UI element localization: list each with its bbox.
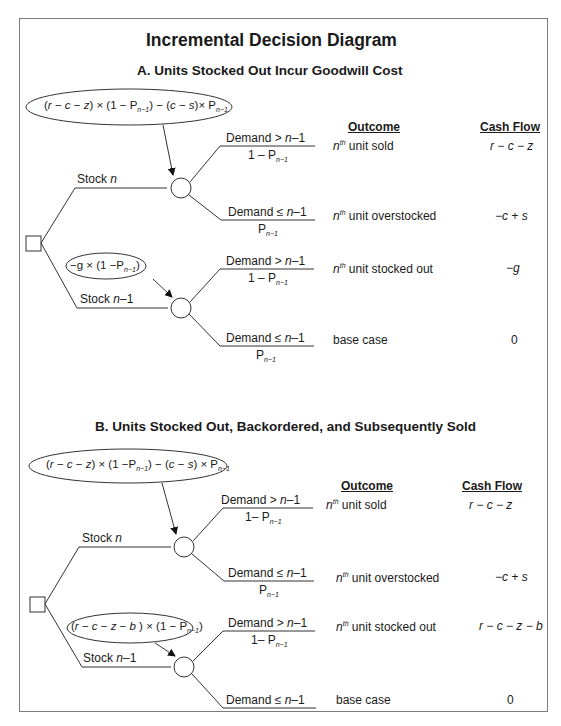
chance-node-b-stock-n1 [174,657,194,677]
panel-b-cashflow-1: r − c − z [469,499,512,511]
panel-b-branch-1-prob: 1– Pn−1 [245,511,282,525]
panel-a-stock-n-formula: (r − c − z) × (1 − Pn−1) − (c − s)× Pn−1 [44,100,228,113]
decision-node-b [30,597,45,612]
panel-b-branch-3-event: Demand > n–1 [228,617,307,629]
panel-a-outcome-1: nth unit sold [333,139,394,152]
panel-b-stock-n-formula: (r − c − z) × (1 −Pn−1) − (c − s) × Pn−1 [46,459,230,472]
panel-b-outcome-2: nth unit overstocked [336,571,439,584]
chance-node-b-stock-n [174,537,194,557]
panel-a-outcome-header: Outcome [348,121,400,133]
panel-b-outcome-3: nth unit stocked out [336,620,436,633]
page-title: Incremental Decision Diagram [146,32,397,50]
panel-b-cashflow-4: 0 [507,694,514,706]
panel-a-cashflow-3: −g [506,262,520,274]
panel-a-branch-3-prob: 1 – Pn−1 [248,272,288,286]
panel-b-stock-n-label: Stock n [82,532,122,544]
panel-b-branch-2-event: Demand ≤ n–1 [228,567,307,579]
panel-b-branch-1-event: Demand > n–1 [221,494,300,506]
panel-a-branch-1-prob: 1 – Pn−1 [248,149,288,163]
panel-a-stock-n-label: Stock n [77,173,117,185]
panel-b-heading: B. Units Stocked Out, Backordered, and S… [95,420,476,434]
panel-a-branch-2-event: Demand ≤ n–1 [228,206,307,218]
panel-a-branch-4-event: Demand ≤ n–1 [226,332,305,344]
chance-node-a-stock-n [171,178,191,198]
panel-a-outcome-2: nth unit overstocked [333,209,436,222]
panel-b-stock-n1-formula: (r − c − z − b ) × (1 − Pn−1) [71,621,203,634]
chance-node-a-stock-n1 [171,298,191,318]
panel-a-branch-1-event: Demand > n–1 [226,132,305,144]
panel-b-outcome-1: nth unit sold [326,498,387,511]
panel-a-cashflow-4: 0 [511,334,518,346]
panel-a-branch-4-prob: Pn−1 [256,349,276,363]
panel-a-outcome-3: nth unit stocked out [333,262,433,275]
panel-a-cashflow-header: Cash Flow [480,121,540,133]
decision-node-a [26,236,41,251]
panel-b-cashflow-3: r − c − z − b [479,620,543,632]
panel-a-branch-3-event: Demand > n–1 [226,255,305,267]
panel-b-cashflow-header: Cash Flow [462,480,522,492]
panel-b-branch-2-prob: Pn−1 [259,584,279,598]
panel-a-stock-n1-label: Stock n–1 [80,293,133,305]
panel-b-stock-n1-label: Stock n–1 [83,652,136,664]
panel-b-outcome-4: base case [336,694,391,706]
panel-a-outcome-4: base case [333,334,388,346]
panel-b-cashflow-2: −c + s [495,571,528,583]
panel-a-cashflow-2: −c + s [495,210,528,222]
panel-b-branch-3-prob: 1– Pn−1 [251,634,288,648]
panel-a-cashflow-1: r − c − z [490,140,533,152]
panel-b-branch-4-event: Demand ≤ n–1 [226,694,305,706]
panel-a-stock-n1-formula: −g × (1 −Pn−1) [70,260,140,273]
panel-b-outcome-header: Outcome [341,480,393,492]
panel-a-branch-2-prob: Pn−1 [258,223,278,237]
panel-a-heading: A. Units Stocked Out Incur Goodwill Cost [137,64,403,78]
